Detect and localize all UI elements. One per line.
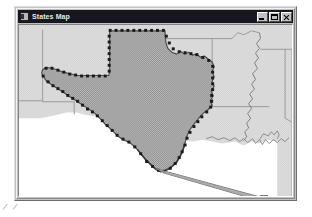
window-title: States Map	[32, 12, 70, 21]
rubberband-line	[156, 169, 263, 196]
title-bar[interactable]: States Map	[18, 10, 293, 23]
stray-mark	[3, 204, 8, 210]
maximize-button[interactable]	[269, 12, 280, 22]
application-icon	[20, 12, 29, 21]
close-button[interactable]	[281, 12, 292, 22]
minimize-button[interactable]	[257, 12, 268, 22]
map-canvas[interactable]	[18, 24, 293, 197]
states-map-graphic[interactable]	[19, 25, 292, 196]
states-map-window[interactable]: States Map	[14, 6, 297, 201]
stray-mark	[13, 204, 18, 210]
